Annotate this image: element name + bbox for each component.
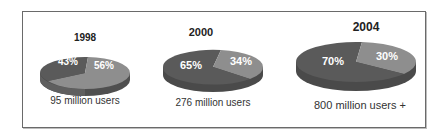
slice-label-2004-dark: 70%: [322, 55, 344, 67]
slice-label-2004-light: 30%: [376, 50, 398, 62]
pie-2004-caption: 800 million users +: [305, 99, 415, 111]
pie-2004: [0, 0, 447, 136]
